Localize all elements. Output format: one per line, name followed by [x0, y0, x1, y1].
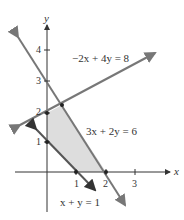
- y-axis-label: y: [44, 12, 49, 24]
- x-tick-1: 1: [74, 178, 79, 189]
- chart-plot: [0, 0, 184, 220]
- x-tick-3: 3: [132, 178, 137, 189]
- equation-label-1: −2x + 4y = 8: [72, 52, 129, 64]
- y-tick-4: 4: [36, 44, 41, 55]
- equation-label-2: 3x + 2y = 6: [86, 125, 137, 137]
- x-axis-label: x: [174, 165, 179, 177]
- y-tick-1: 1: [36, 136, 41, 147]
- y-tick-3: 3: [36, 75, 41, 86]
- x-tick-2: 2: [103, 178, 108, 189]
- y-tick-2: 2: [36, 106, 41, 117]
- equation-label-3: x + y = 1: [60, 196, 100, 208]
